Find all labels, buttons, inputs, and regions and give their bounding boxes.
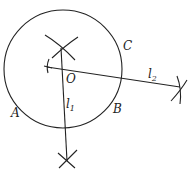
label-l1: l1: [66, 97, 75, 113]
construction-arcs-right: [171, 76, 187, 104]
label-B: B: [112, 102, 122, 116]
label-A: A: [10, 106, 20, 120]
construction-arcs-bottom: [58, 150, 77, 168]
label-l2-sub: 2: [151, 74, 157, 83]
label-C: C: [123, 39, 132, 53]
geometry-diagram: O C B A l1 l2: [0, 0, 189, 175]
label-l2: l2: [148, 67, 157, 83]
construction-arcs-left: [44, 59, 52, 73]
label-O: O: [66, 72, 76, 86]
label-l1-sub: 1: [70, 104, 75, 113]
